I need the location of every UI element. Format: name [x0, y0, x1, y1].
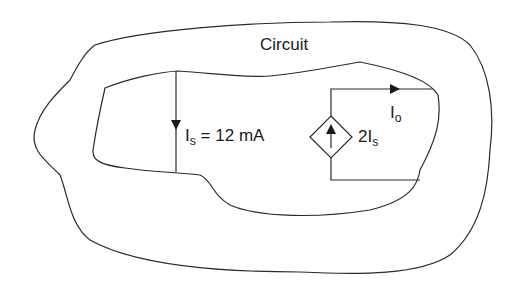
dependent-source-coefficient: 2I — [358, 127, 372, 146]
source-current-label: Is = 12 mA — [185, 127, 264, 148]
bottom-wire — [331, 157, 420, 180]
source-current-arrow-icon — [171, 120, 181, 130]
output-current-subscript: o — [395, 111, 402, 125]
output-current-label: Io — [390, 104, 402, 125]
dependent-source-subscript: s — [372, 135, 378, 149]
outer-circuit-boundary — [34, 22, 492, 274]
top-wire — [331, 89, 433, 116]
circuit-title: Circuit — [260, 36, 308, 53]
source-current-subscript: s — [190, 134, 196, 148]
inner-circuit-boundary — [93, 62, 439, 215]
output-current-arrow-icon — [390, 84, 400, 94]
dependent-source-label: 2Is — [358, 128, 378, 149]
circuit-diagram: Circuit Is = 12 mA Io 2Is — [0, 0, 515, 287]
source-current-value: = 12 mA — [201, 126, 265, 145]
